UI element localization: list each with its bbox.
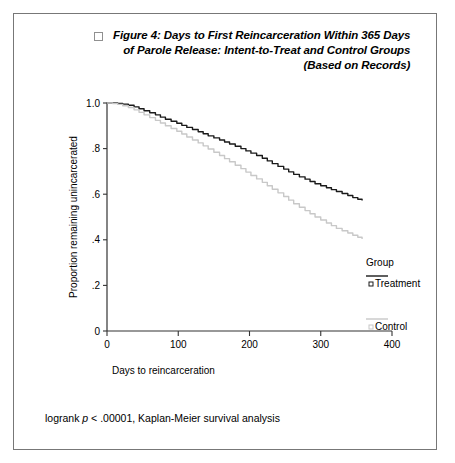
- y-tick-label: .2: [92, 280, 101, 291]
- footnote-suffix: < .00001, Kaplan-Meier survival analysis: [88, 412, 280, 424]
- y-tick-label: .8: [92, 143, 101, 154]
- x-tick-label: 200: [241, 339, 258, 350]
- survival-chart-svg: 0.2.4.6.81.00100200300400Days to reincar…: [14, 14, 438, 451]
- y-tick-label: .6: [92, 189, 101, 200]
- legend-marker-treatment: [369, 282, 373, 286]
- x-axis-title: Days to reincarceration: [112, 365, 215, 376]
- survival-plot: 0.2.4.6.81.00100200300400Days to reincar…: [14, 14, 438, 451]
- y-tick-label: .4: [92, 234, 101, 245]
- footnote-prefix: logrank: [45, 412, 82, 424]
- y-tick-label: 1.0: [86, 98, 100, 109]
- y-axis-title: Proportion remaining unincarcerated: [68, 136, 79, 298]
- x-tick-label: 0: [104, 339, 110, 350]
- y-tick-label: 0: [94, 326, 100, 337]
- series-line-treatment: [107, 103, 362, 201]
- x-tick-label: 400: [384, 339, 401, 350]
- legend-marker-control: [369, 325, 373, 329]
- legend-label-control: Control: [375, 321, 407, 332]
- figure-footnote: logrank p < .00001, Kaplan-Meier surviva…: [45, 412, 280, 424]
- series-line-control: [107, 103, 362, 239]
- legend-title: Group: [366, 257, 394, 268]
- legend-label-treatment: Treatment: [375, 278, 420, 289]
- figure-frame: Figure 4: Days to First Reincarceration …: [13, 13, 437, 450]
- x-tick-label: 300: [312, 339, 329, 350]
- x-tick-label: 100: [170, 339, 187, 350]
